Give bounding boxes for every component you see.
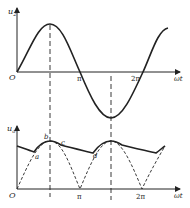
top-y-label: u2 [8,7,16,17]
point-a-label: a [35,153,39,161]
top-origin-label: O [9,73,16,82]
top-sine-wave [17,24,168,118]
top-tick-pi: π [77,75,82,83]
top-x-label: ωt [174,75,183,83]
bottom-x-label: ωt [174,192,183,200]
bottom-plot: uo a b c d O π 2π ωt [7,124,183,201]
point-b-label: b [44,133,49,141]
rectifier-waveform-diagram: u2 O π 2π ωt uo a b c d O π 2π ωt [0,0,190,208]
top-plot: u2 O π 2π ωt [8,7,183,118]
rectified-sine-dashed [17,141,165,189]
point-d-label: d [93,152,98,160]
bottom-origin-label: O [9,191,16,200]
bottom-tick-2pi: 2π [136,193,145,201]
bottom-tick-pi: π [77,193,82,201]
top-tick-2pi: 2π [131,75,140,83]
bottom-y-label: uo [7,124,15,134]
point-c-label: c [61,139,65,147]
